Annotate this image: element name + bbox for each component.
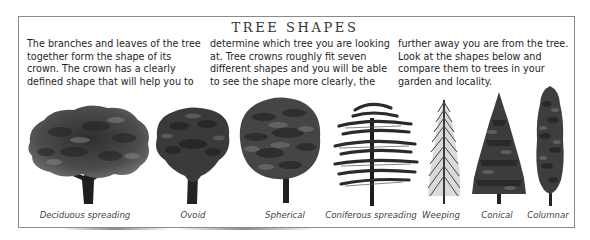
intro-line: together form the shape of its bbox=[27, 51, 201, 64]
intro-column-3: further away you are from the tree. Look… bbox=[398, 38, 568, 88]
intro-line: compare them to trees in your bbox=[398, 63, 568, 76]
tree-label-ovoid: Ovoid bbox=[181, 210, 206, 220]
tree-label-coniferous-spreading: Coniferous spreading bbox=[325, 210, 417, 220]
tree-label-deciduous-spreading: Deciduous spreading bbox=[40, 210, 131, 220]
intro-line: different shapes and you will be able bbox=[210, 63, 390, 76]
intro-line: The branches and leaves of the tree bbox=[27, 38, 201, 51]
coniferous-spreading-tree-icon bbox=[331, 98, 423, 206]
intro-line: Look at the shapes below and bbox=[398, 51, 568, 64]
page-curl-shadow-right bbox=[175, 228, 315, 230]
page-title: TREE SHAPES bbox=[0, 20, 590, 35]
intro-line: further away you are from the tree. bbox=[398, 38, 568, 51]
tree-label-columnar: Columnar bbox=[527, 210, 569, 220]
weeping-tree-icon bbox=[426, 92, 464, 206]
tree-label-spherical: Spherical bbox=[265, 210, 305, 220]
tree-label-conical: Conical bbox=[481, 210, 512, 220]
intro-line: determine which tree you are looking bbox=[210, 38, 390, 51]
deciduous-spreading-tree-icon bbox=[24, 100, 154, 206]
columnar-tree-icon bbox=[533, 84, 567, 206]
intro-column-2: determine which tree you are looking at.… bbox=[210, 38, 390, 88]
intro-line: crown. The crown has a clearly bbox=[27, 63, 201, 76]
page-curl-shadow-left bbox=[60, 228, 170, 230]
conical-tree-icon bbox=[470, 90, 528, 206]
intro-column-1: The branches and leaves of the tree toge… bbox=[27, 38, 201, 88]
intro-line: to see the shape more clearly, the bbox=[210, 76, 390, 89]
tree-label-weeping: Weeping bbox=[422, 210, 460, 220]
intro-line: at. Tree crowns roughly fit seven bbox=[210, 51, 390, 64]
ovoid-tree-icon bbox=[153, 104, 233, 206]
spherical-tree-icon bbox=[236, 95, 324, 205]
intro-line: defined shape that will help you to bbox=[27, 76, 201, 89]
